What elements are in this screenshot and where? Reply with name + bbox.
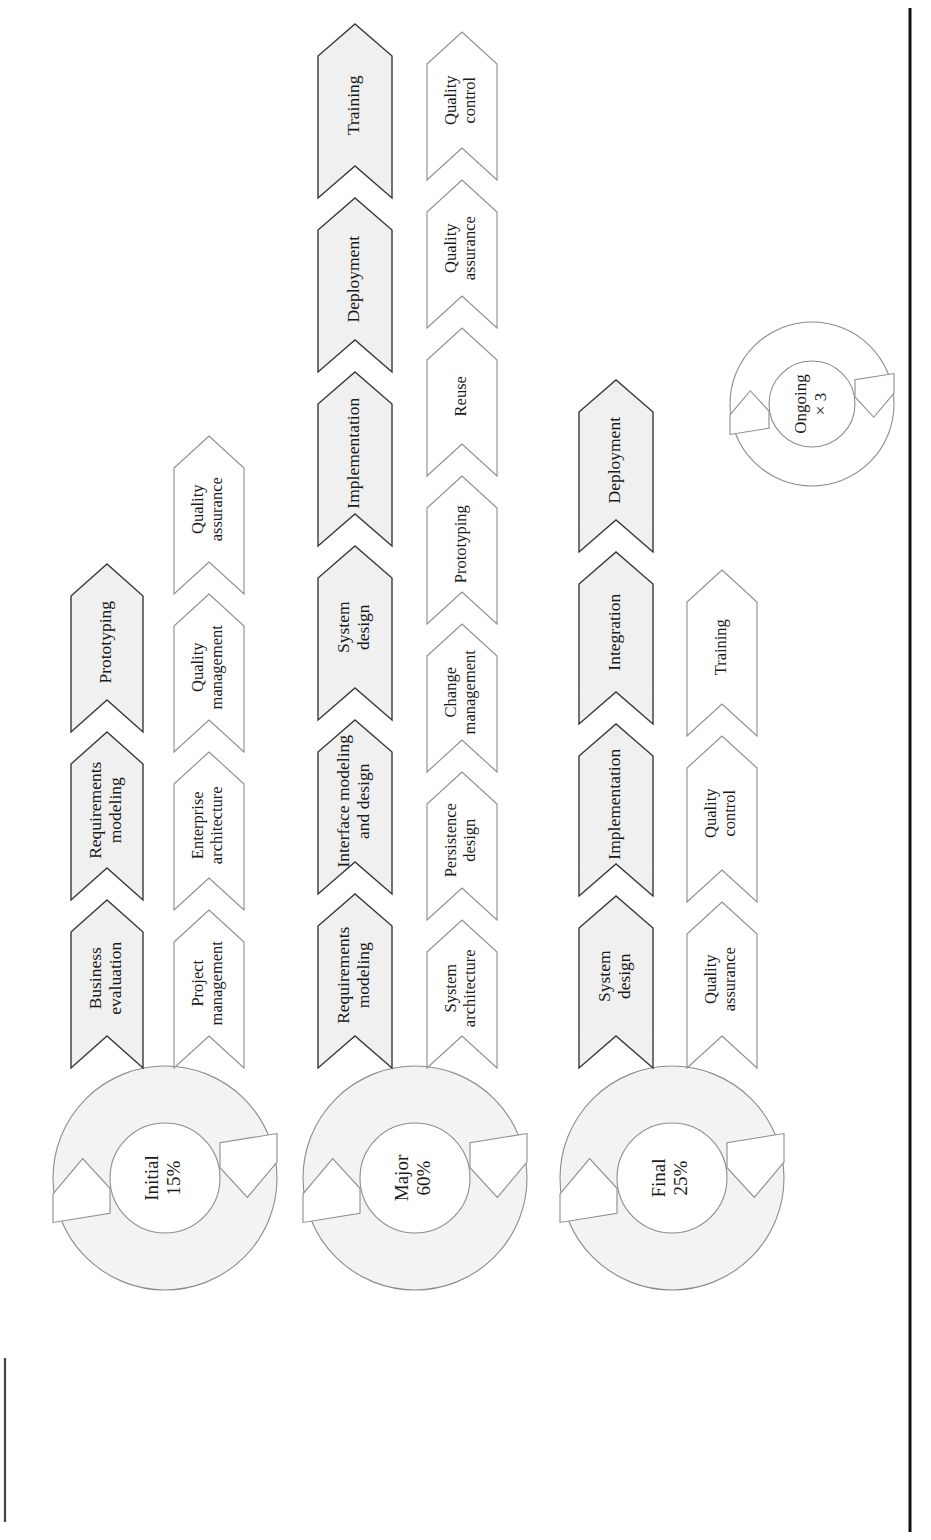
ring-label-text: Final25% xyxy=(648,1158,691,1197)
label-line: Implementation xyxy=(343,398,363,509)
label-line: Requirements xyxy=(85,761,105,858)
label-line: Change xyxy=(441,667,460,717)
label-line: modeling xyxy=(105,777,125,843)
ring-label-text: Initial15% xyxy=(141,1155,184,1200)
arrow-step-label: Implementation xyxy=(604,749,624,860)
arrow-step-label: Deployment xyxy=(343,236,363,323)
label-line: evaluation xyxy=(105,942,125,1015)
arrow-step-label: Prototyping xyxy=(95,601,115,684)
arrow-step-label: Enterprisearchitecture xyxy=(188,786,226,864)
arrow-step-label: Qualitycontrol xyxy=(441,75,479,125)
label-line: design xyxy=(614,953,634,999)
iteration-ring-initial[interactable]: Initial15% xyxy=(53,1066,277,1290)
label-line: assurance xyxy=(720,947,739,1011)
iteration-ring-ongoing[interactable]: Ongoing× 3 xyxy=(730,322,894,486)
label-line: control xyxy=(460,76,479,123)
label-line: Integration xyxy=(604,594,624,671)
label-line: Training xyxy=(711,619,730,675)
label-line: Quality xyxy=(701,788,720,838)
label-line: architecture xyxy=(207,786,226,864)
diagram-canvas: Initial15%Major60%Final25%Ongoing× 3 Bus… xyxy=(0,0,931,1540)
label-line: Interface modeling xyxy=(333,735,353,868)
label-line: Enterprise xyxy=(188,791,207,859)
label-line: Prototyping xyxy=(451,505,470,583)
arrow-step-label: Qualitycontrol xyxy=(701,788,739,838)
label-line: Quality xyxy=(441,75,460,125)
label-line: Deployment xyxy=(343,236,363,323)
process-diagram-svg: Initial15%Major60%Final25%Ongoing× 3 Bus… xyxy=(0,0,931,1540)
label-line: 60% xyxy=(413,1160,434,1195)
label-line: System xyxy=(333,601,353,653)
arrow-step-label: Qualityassurance xyxy=(701,947,739,1011)
label-line: management xyxy=(207,625,226,710)
arrow-step-label: Businessevaluation xyxy=(85,942,125,1015)
label-line: 15% xyxy=(163,1160,184,1195)
arrow-step-label: Training xyxy=(343,75,363,135)
arrow-step-label: Integration xyxy=(604,594,624,671)
arrow-step-label: Deployment xyxy=(604,417,624,504)
iteration-ring-major[interactable]: Major60% xyxy=(303,1066,527,1290)
arrow-step-label: Qualityassurance xyxy=(188,477,226,541)
label-line: Reuse xyxy=(451,376,470,416)
label-line: design xyxy=(460,819,479,862)
label-line: control xyxy=(720,789,739,836)
label-line: Persistence xyxy=(441,803,460,877)
label-line: Final xyxy=(648,1158,669,1197)
label-line: design xyxy=(353,604,373,650)
label-line: modeling xyxy=(353,942,373,1008)
arrow-step-label: Prototyping xyxy=(451,505,470,583)
arrow-step-label: Systemdesign xyxy=(333,601,373,653)
label-line: management xyxy=(207,941,226,1026)
track-initial-primary: BusinessevaluationRequirementsmodelingPr… xyxy=(71,564,143,1068)
label-line: management xyxy=(460,650,479,735)
track-final-support: QualityassuranceQualitycontrolTraining xyxy=(687,570,757,1068)
arrow-step-label: Qualityassurance xyxy=(441,216,479,280)
label-line: Initial xyxy=(141,1155,162,1200)
label-line: Quality xyxy=(188,642,207,692)
label-line: Training xyxy=(343,75,363,135)
label-line: Ongoing xyxy=(791,374,810,434)
label-line: Project xyxy=(188,959,207,1006)
label-line: Quality xyxy=(701,954,720,1004)
arrow-step-label: Implementation xyxy=(343,398,363,509)
label-line: Quality xyxy=(441,223,460,273)
label-line: × 3 xyxy=(811,393,830,415)
arrow-step-label: Training xyxy=(711,619,730,675)
label-line: Requirements xyxy=(333,926,353,1023)
label-line: System xyxy=(441,964,460,1013)
label-line: assurance xyxy=(460,216,479,280)
arrow-step-label: Reuse xyxy=(451,376,470,416)
label-line: System xyxy=(594,950,614,1002)
label-line: Quality xyxy=(188,484,207,534)
label-line: Deployment xyxy=(604,417,624,504)
iteration-ring-final[interactable]: Final25% xyxy=(560,1066,784,1290)
label-line: Implementation xyxy=(604,749,624,860)
label-line: Prototyping xyxy=(95,601,115,684)
label-line: assurance xyxy=(207,477,226,541)
arrow-step-label: Systemdesign xyxy=(594,950,634,1002)
label-line: Business xyxy=(85,947,105,1009)
label-line: architecture xyxy=(460,949,479,1027)
label-line: Major xyxy=(391,1154,412,1201)
label-line: 25% xyxy=(670,1160,691,1195)
label-line: and design xyxy=(353,763,373,839)
ring-label-text: Major60% xyxy=(391,1154,434,1201)
